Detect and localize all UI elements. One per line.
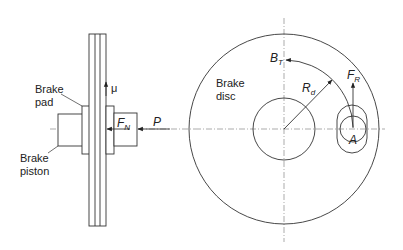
disc-radius-label: Rd	[302, 81, 316, 97]
mu-label: μ	[111, 82, 117, 94]
pressure-label: P	[153, 115, 161, 129]
brake-pad-right	[106, 106, 114, 154]
side-view	[48, 34, 195, 226]
brake-piston-leader	[48, 146, 58, 153]
brake-pad-label-line1: Brake	[35, 83, 64, 95]
brake-piston-label-line1: Brake	[20, 152, 49, 164]
front-view	[189, 18, 385, 242]
brake-piston	[58, 114, 83, 146]
brake-pad-leader	[61, 94, 82, 106]
brake-disc-label-line2: disc	[216, 90, 236, 102]
point-a-label: A	[348, 133, 357, 147]
disc-plate	[89, 34, 106, 226]
braking-torque-label: BT	[270, 51, 284, 67]
disc-brake-diagram: Brake pad Brake piston μ FN P Brake disc…	[0, 0, 403, 250]
brake-disc-label-line1: Brake	[216, 77, 245, 89]
front-view-labels: Brake disc BT Rd FR A	[216, 51, 360, 147]
brake-piston-label-line2: piston	[20, 165, 49, 177]
brake-pad-label-line2: pad	[35, 96, 53, 108]
